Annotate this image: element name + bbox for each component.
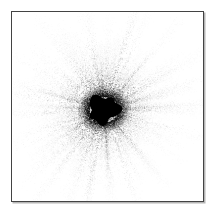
figure-root <box>0 0 217 217</box>
plot-frame <box>11 11 204 202</box>
radial-burst-scatter-plot <box>12 12 203 201</box>
